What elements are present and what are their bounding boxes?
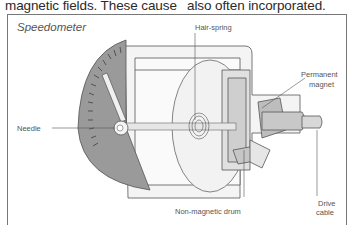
label-needle: Needle <box>17 124 41 133</box>
label-drive-cable-1: Drive <box>318 199 336 208</box>
label-non-magnetic-drum: Non-magnetic drum <box>175 207 241 216</box>
label-permanent-magnet-2: magnet <box>309 80 334 89</box>
label-permanent-magnet-1: Permanent <box>301 70 338 79</box>
speedometer-diagram <box>0 0 351 225</box>
spindle <box>126 123 236 130</box>
drive-shaft <box>262 112 322 130</box>
label-drive-cable-2: cable <box>316 208 334 217</box>
figure-title: Speedometer <box>17 21 86 33</box>
label-hair-spring: Hair-spring <box>195 23 232 32</box>
